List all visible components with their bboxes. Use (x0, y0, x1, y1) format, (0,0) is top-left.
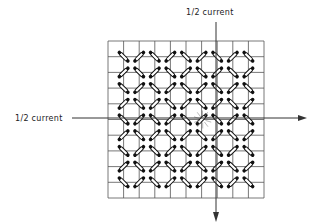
selection-burst (205, 120, 211, 122)
core-memory-plane (0, 0, 320, 224)
down-arrow-icon (213, 212, 219, 222)
right-arrow-icon (298, 115, 307, 121)
selection-burst (204, 122, 208, 127)
selection-burst (197, 112, 201, 117)
